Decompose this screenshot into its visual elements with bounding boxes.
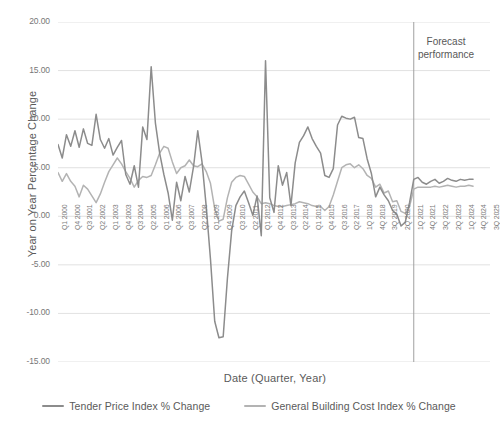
chart-svg (58, 22, 490, 362)
x-axis-tick-label: 2Q 2020 (404, 205, 411, 230)
y-axis-tick-label: 5.00 (4, 162, 50, 172)
x-axis-tick-label: Q2 2014 (302, 205, 309, 230)
x-axis-tick-label: 4Q 2021 (429, 205, 436, 230)
x-axis-tick-label: Q2 2002 (99, 205, 106, 230)
x-axis-tick-label: 1Q 2021 (417, 205, 424, 230)
y-axis-tick-label: 20.00 (4, 16, 50, 26)
x-axis-tick-label: Q3 2010 (239, 205, 246, 230)
forecast-annotation-line2: performance (400, 49, 492, 62)
x-axis-tick-label: Q3 2004 (137, 205, 144, 230)
x-axis-tick-label: Q2 2017 (353, 205, 360, 230)
x-axis-tick-label: Q1 2000 (61, 205, 68, 230)
x-axis-tick-label: Q4 2009 (226, 205, 233, 230)
x-axis-tick-label: Q4 2015 (328, 205, 335, 230)
x-axis-tick-label: 1Q 2024 (468, 205, 475, 230)
x-axis-tick-label: Q1 2012 (264, 205, 271, 230)
x-axis-tick-label: Q1 2003 (112, 205, 119, 230)
x-axis-tick-label: Q2 2008 (201, 205, 208, 230)
chart-legend: Tender Price Index % ChangeGeneral Build… (0, 400, 498, 412)
x-axis-tick-label: Q1 2009 (213, 205, 220, 230)
legend-swatch (244, 405, 266, 407)
forecast-annotation-line1: Forecast (400, 36, 492, 49)
x-axis-tick-label: Q4 2006 (175, 205, 182, 230)
y-axis-tick-label: -15.00 (4, 356, 50, 366)
x-axis-tick-label: 3Q 2019 (391, 205, 398, 230)
legend-label: Tender Price Index % Change (69, 400, 210, 412)
legend-item[interactable]: General Building Cost Index % Change (244, 400, 456, 412)
series-line (58, 61, 473, 338)
x-axis-tick-label: Q2 2011 (252, 205, 259, 230)
x-axis-tick-label: Q3 2016 (341, 205, 348, 230)
x-axis-tick-label: Q4 2003 (125, 205, 132, 230)
x-axis-tick-label: Q2 2005 (150, 205, 157, 230)
forecast-annotation: Forecast performance (400, 36, 492, 61)
y-axis-tick-label: -10.00 (4, 307, 50, 317)
x-axis-tick-label: 1Q 2018 (366, 205, 373, 230)
x-axis-tick-label: Q3 2007 (188, 205, 195, 230)
x-axis-tick-label: Q3 2001 (86, 205, 93, 230)
x-axis-tick-label: 3Q 2025 (493, 205, 500, 230)
y-axis-tick-label: -5.00 (4, 259, 50, 269)
y-axis-tick-label: 10.00 (4, 113, 50, 123)
x-axis-tick-label: 3Q 2022 (442, 205, 449, 230)
x-axis-tick-label: Q1 2006 (163, 205, 170, 230)
x-axis-tick-label: Q1 2015 (315, 205, 322, 230)
plot-area (58, 22, 490, 362)
x-axis-tick-label: Q4 2012 (277, 205, 284, 230)
legend-swatch (42, 405, 64, 407)
legend-item[interactable]: Tender Price Index % Change (42, 400, 210, 412)
x-axis-title: Date (Quarter, Year) (60, 372, 490, 384)
x-axis-tick-label: 2Q 2023 (455, 205, 462, 230)
x-axis-tick-label: 4Q 2018 (379, 205, 386, 230)
x-axis-tick-label: 4Q 2024 (480, 205, 487, 230)
x-axis-tick-label: Q3 2013 (290, 205, 297, 230)
x-axis-tick-label: Q4 2000 (74, 205, 81, 230)
legend-label: General Building Cost Index % Change (271, 400, 456, 412)
y-axis-tick-label: 15.00 (4, 65, 50, 75)
y-axis-tick-label: 0.00 (4, 210, 50, 220)
